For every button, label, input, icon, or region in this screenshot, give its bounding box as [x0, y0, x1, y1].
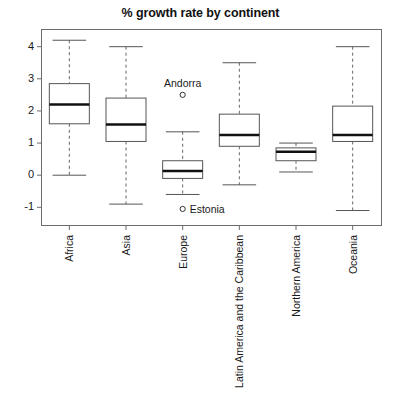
y-axis-tick-label: 4	[28, 40, 34, 52]
box	[106, 98, 146, 141]
x-axis-tick-label: Asia	[120, 235, 132, 256]
x-axis-tick-label: Europe	[177, 235, 189, 269]
y-axis-tick-label: 1	[28, 136, 34, 148]
x-axis-tick-label: Africa	[63, 235, 75, 262]
outlier-point	[180, 206, 185, 211]
y-axis-tick-label: 0	[28, 168, 34, 180]
x-axis-tick-label: Northern America	[290, 235, 302, 317]
y-axis-tick-label: -1	[24, 200, 34, 212]
box	[219, 114, 259, 146]
outlier-label: Andorra	[164, 77, 202, 89]
box	[163, 161, 203, 179]
y-axis-tick-label: 3	[28, 72, 34, 84]
outlier-label: Estonia	[190, 203, 225, 215]
figure: % growth rate by continent 43210-1Africa…	[0, 0, 401, 416]
box	[276, 148, 316, 161]
boxplot-canvas: 43210-1AfricaAsiaAndorraEstoniaEuropeLat…	[0, 0, 401, 416]
y-axis-tick-label: 2	[28, 104, 34, 116]
outlier-point	[180, 92, 185, 97]
plot-frame	[42, 30, 382, 226]
x-axis-tick-label: Oceania	[347, 235, 359, 274]
x-axis-tick-label: Latin America and the Caribbean	[233, 235, 245, 388]
